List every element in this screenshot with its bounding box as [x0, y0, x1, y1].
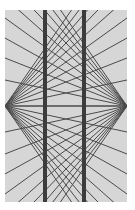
hering-illusion	[0, 0, 135, 210]
